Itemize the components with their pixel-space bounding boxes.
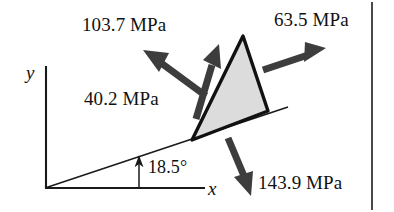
stress-label-40: 40.2 MPa [84,88,159,110]
stress-arrow-143 [228,138,253,196]
x-axis-label: x [208,178,216,200]
stress-arrow-63 [263,42,326,70]
stress-label-63: 63.5 MPa [274,9,349,31]
y-axis-label: y [26,62,34,84]
stress-label-143: 143.9 MPa [258,172,342,194]
angle-label: 18.5° [148,157,187,178]
stress-diagram-figure: 103.7 MPa 63.5 MPa 40.2 MPa 143.9 MPa 18… [0,0,394,212]
stress-label-103: 103.7 MPa [82,14,166,36]
